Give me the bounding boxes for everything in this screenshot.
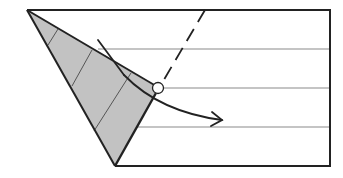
dashed-fold-line — [162, 10, 205, 83]
reference-point-circle — [153, 83, 164, 94]
origami-diagram — [0, 0, 343, 178]
